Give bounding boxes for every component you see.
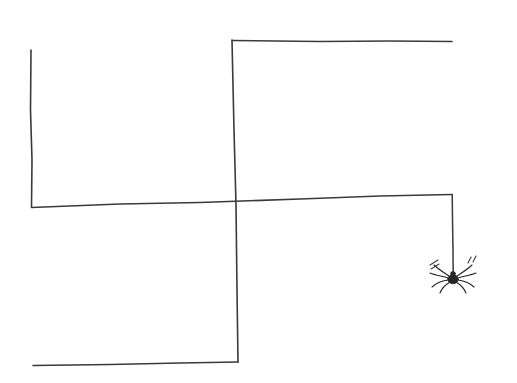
segment-top-horizontal [232,41,452,42]
hand-drawn-illustration [0,0,517,383]
spider-head-icon [451,272,456,276]
drawing-canvas: Hand-drawn spiral path with hanging spid… [0,0,517,383]
canvas-background [0,0,517,383]
